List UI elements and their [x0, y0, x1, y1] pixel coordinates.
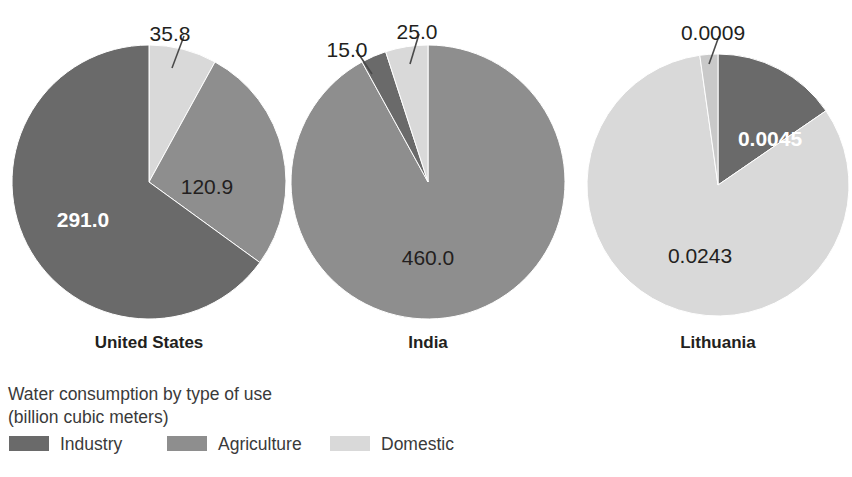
- slice-value-lithuania-domestic: 0.0009: [681, 21, 745, 44]
- legend-entry-industry[interactable]: Industry: [9, 434, 122, 454]
- legend-entry-agriculture[interactable]: Agriculture: [167, 434, 302, 454]
- pie-title-united-states: United States: [95, 333, 204, 352]
- slice-value-united-states-domestic: 35.8: [150, 22, 191, 45]
- slice-value-lithuania-industry: 0.0045: [738, 127, 803, 150]
- legend-title-line1: Water consumption by type of use: [8, 384, 272, 404]
- slice-value-india-domestic: 25.0: [397, 20, 438, 43]
- legend-label-industry: Industry: [60, 434, 122, 454]
- pie-charts-layer: 35.8120.9291.0United States460.015.025.0…: [12, 20, 849, 352]
- legend-label-domestic: Domestic: [381, 434, 454, 454]
- legend-swatch-industry: [9, 436, 49, 451]
- legend-swatch-agriculture: [167, 436, 207, 451]
- pie-title-lithuania: Lithuania: [680, 333, 756, 352]
- legend-swatch-domestic: [330, 436, 370, 451]
- slice-value-united-states-agriculture: 120.9: [181, 175, 234, 198]
- pie-title-india: India: [408, 333, 448, 352]
- pie-chart-figure: 35.8120.9291.0United States460.015.025.0…: [0, 0, 852, 477]
- legend-entry-domestic[interactable]: Domestic: [330, 434, 454, 454]
- legend-label-agriculture: Agriculture: [218, 434, 302, 454]
- legend-title-line2: (billion cubic meters): [8, 407, 168, 427]
- slice-value-united-states-industry: 291.0: [57, 208, 110, 231]
- slice-value-india-industry: 15.0: [327, 38, 368, 61]
- slice-value-lithuania-agriculture: 0.0243: [668, 244, 732, 267]
- slice-value-india-agriculture: 460.0: [402, 246, 455, 269]
